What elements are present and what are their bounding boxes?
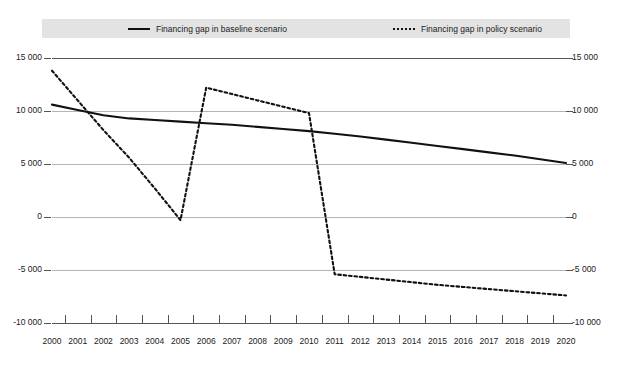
series-line-policy — [52, 71, 566, 296]
series-layer — [0, 0, 620, 365]
chart-container: Financing gap in baseline scenario Finan… — [0, 0, 620, 365]
